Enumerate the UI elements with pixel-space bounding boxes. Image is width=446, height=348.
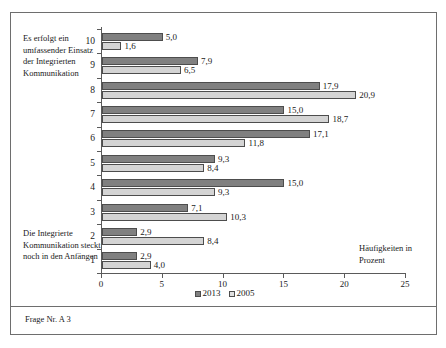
bar-value-label: 5,0 bbox=[166, 32, 177, 42]
y-tick-mark bbox=[97, 249, 101, 250]
bar-value-label: 17,9 bbox=[323, 81, 339, 91]
bar-2013-cat-5 bbox=[102, 155, 215, 163]
y-category-label: 10 bbox=[75, 36, 95, 47]
bar-2005-cat-10 bbox=[102, 42, 121, 50]
y-tick-mark bbox=[97, 175, 101, 176]
x-tick-mark bbox=[283, 273, 284, 278]
y-tick-mark bbox=[97, 102, 101, 103]
y-tick-mark bbox=[97, 151, 101, 152]
x-tick-mark bbox=[162, 273, 163, 278]
x-tick-mark bbox=[344, 273, 345, 278]
y-category-label: 2 bbox=[75, 231, 95, 242]
y-tick-mark bbox=[97, 53, 101, 54]
legend-label: 2013 bbox=[203, 287, 221, 299]
bar-2013-cat-9 bbox=[102, 57, 198, 65]
bar-2013-cat-10 bbox=[102, 33, 163, 41]
y-tick-mark bbox=[97, 224, 101, 225]
bar-value-label: 7,1 bbox=[191, 203, 202, 213]
legend-item-2013: 2013 bbox=[195, 287, 221, 299]
bar-2005-cat-7 bbox=[102, 115, 329, 123]
plot-area: 5,01,67,96,517,920,915,018,717,111,89,38… bbox=[101, 29, 405, 273]
bar-2013-cat-2 bbox=[102, 228, 137, 236]
y-category-label: 7 bbox=[75, 109, 95, 120]
bar-2013-cat-8 bbox=[102, 82, 320, 90]
bar-value-label: 2,9 bbox=[140, 251, 151, 261]
bar-value-label: 6,5 bbox=[184, 65, 195, 75]
x-axis-line bbox=[101, 273, 405, 274]
bar-value-label: 8,4 bbox=[207, 236, 218, 246]
figure-frame: Es erfolgt ein umfassender Einsatz der I… bbox=[10, 12, 437, 335]
legend-swatch-icon bbox=[195, 291, 201, 297]
bar-2005-cat-5 bbox=[102, 164, 204, 172]
bar-2013-cat-7 bbox=[102, 106, 284, 114]
bar-value-label: 9,3 bbox=[218, 154, 229, 164]
legend-swatch-icon bbox=[229, 291, 235, 297]
bar-2013-cat-1 bbox=[102, 252, 137, 260]
bar-value-label: 4,0 bbox=[154, 260, 165, 270]
bar-value-label: 9,3 bbox=[218, 187, 229, 197]
bar-value-label: 1,6 bbox=[124, 41, 135, 51]
bar-value-label: 18,7 bbox=[332, 114, 348, 124]
legend-item-2005: 2005 bbox=[229, 287, 255, 299]
y-category-label: 5 bbox=[75, 158, 95, 169]
chart-legend: 20132005 bbox=[11, 287, 438, 299]
bar-2005-cat-6 bbox=[102, 139, 245, 147]
bar-2013-cat-6 bbox=[102, 130, 310, 138]
bar-2013-cat-4 bbox=[102, 179, 284, 187]
footer-caption: Frage Nr. A 3 bbox=[25, 313, 71, 325]
bar-2005-cat-4 bbox=[102, 188, 215, 196]
footer-divider bbox=[11, 306, 436, 307]
bar-value-label: 7,9 bbox=[201, 56, 212, 66]
y-tick-mark bbox=[97, 127, 101, 128]
y-category-label: 9 bbox=[75, 60, 95, 71]
bar-value-label: 15,0 bbox=[287, 178, 303, 188]
bar-value-label: 8,4 bbox=[207, 163, 218, 173]
y-category-label: 3 bbox=[75, 207, 95, 218]
y-category-label: 4 bbox=[75, 182, 95, 193]
y-category-label: 6 bbox=[75, 133, 95, 144]
bar-2005-cat-2 bbox=[102, 237, 204, 245]
bar-2005-cat-1 bbox=[102, 261, 151, 269]
bar-2005-cat-9 bbox=[102, 66, 181, 74]
y-tick-mark bbox=[97, 273, 101, 274]
x-tick-mark bbox=[101, 273, 102, 278]
bar-value-label: 10,3 bbox=[230, 212, 246, 222]
y-category-label: 8 bbox=[75, 85, 95, 96]
bar-value-label: 17,1 bbox=[313, 129, 329, 139]
bar-value-label: 15,0 bbox=[287, 105, 303, 115]
bar-2005-cat-8 bbox=[102, 91, 356, 99]
bar-value-label: 20,9 bbox=[359, 90, 375, 100]
bar-value-label: 2,9 bbox=[140, 227, 151, 237]
y-tick-mark bbox=[97, 78, 101, 79]
legend-label: 2005 bbox=[237, 287, 255, 299]
bar-2005-cat-3 bbox=[102, 213, 227, 221]
bar-2013-cat-3 bbox=[102, 204, 188, 212]
y-tick-mark bbox=[97, 29, 101, 30]
x-tick-mark bbox=[223, 273, 224, 278]
y-category-label: 1 bbox=[75, 255, 95, 266]
x-tick-mark bbox=[405, 273, 406, 278]
y-tick-mark bbox=[97, 200, 101, 201]
bar-value-label: 11,8 bbox=[248, 138, 263, 148]
